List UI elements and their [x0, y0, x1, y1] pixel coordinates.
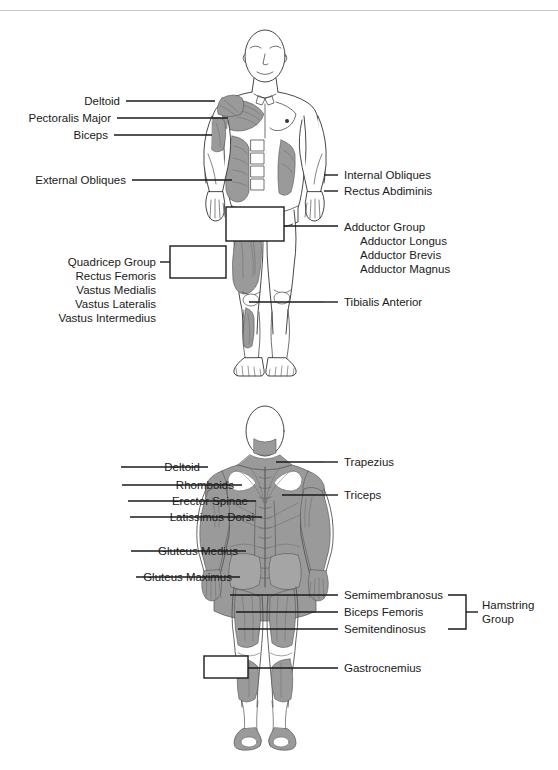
posterior-leader-lines — [0, 400, 558, 770]
label-internal-obliques: Internal Obliques — [344, 169, 431, 182]
adductor-group-heading: Adductor Group — [344, 220, 450, 234]
quadricep-member-vastus-lateralis: Vastus Lateralis — [8, 297, 156, 311]
label-gluteus-medius: Gluteus Medius — [20, 545, 238, 558]
adductor-member-brevis: Adductor Brevis — [344, 248, 450, 262]
quadricep-group-heading: Quadricep Group — [8, 255, 156, 269]
label-semitendinosus: Semitendinosus — [344, 623, 426, 636]
label-triceps: Triceps — [344, 489, 381, 502]
label-trapezius: Trapezius — [344, 456, 394, 469]
label-biceps-femoris: Biceps Femoris — [344, 606, 423, 619]
adductor-group-block: Adductor Group Adductor Longus Adductor … — [344, 220, 450, 276]
quadricep-member-rectus-femoris: Rectus Femoris — [8, 269, 156, 283]
hamstring-group-line1: Hamstring — [482, 598, 534, 612]
label-rectus-abdiminis: Rectus Abdiminis — [344, 185, 432, 198]
hamstring-bracket — [448, 595, 478, 629]
hamstring-group-label: Hamstring Group — [482, 598, 534, 626]
quadricep-member-vastus-intermedius: Vastus Intermedius — [8, 311, 156, 325]
callout-box-adductor — [226, 207, 284, 241]
label-biceps: Biceps — [20, 129, 108, 142]
anatomy-chart-page: Deltoid Pectoralis Major Biceps External… — [0, 0, 558, 770]
label-erector-spinae: Erector Spinae — [20, 495, 248, 508]
hamstring-group-line2: Group — [482, 612, 534, 626]
adductor-member-magnus: Adductor Magnus — [344, 262, 450, 276]
label-gastrocnemius: Gastrocnemius — [344, 662, 421, 675]
callout-box-quadricep — [170, 246, 226, 278]
label-latissimus-dorsi: Latissimus Dorsi — [20, 511, 254, 524]
callout-box-gastrocnemius — [204, 656, 248, 678]
label-semimembranosus: Semimembranosus — [344, 589, 443, 602]
label-external-obliques: External Obliques — [0, 174, 126, 187]
quadricep-member-vastus-medialis: Vastus Medialis — [8, 283, 156, 297]
adductor-member-longus: Adductor Longus — [344, 234, 450, 248]
label-pectoralis-major: Pectoralis Major — [0, 112, 111, 125]
label-deltoid-posterior: Deltoid — [20, 461, 200, 474]
quadricep-group-block: Quadricep Group Rectus Femoris Vastus Me… — [8, 255, 156, 325]
label-rhomboids: Rhomboids — [20, 479, 234, 492]
anterior-leader-lines — [0, 0, 558, 400]
label-tibialis-anterior: Tibialis Anterior — [344, 296, 422, 309]
label-deltoid-anterior: Deltoid — [20, 95, 120, 108]
label-gluteus-maximus: Gluteus Maximus — [20, 571, 232, 584]
